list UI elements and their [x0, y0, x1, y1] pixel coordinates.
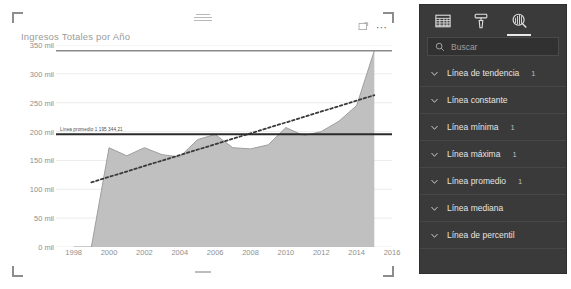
x-axis-labels: 1998200020022004200620082010201220142016 [56, 248, 390, 262]
analytics-card-count: 1 [511, 123, 515, 132]
chevron-down-icon[interactable] [430, 69, 439, 78]
x-axis-tick-label: 2008 [242, 248, 259, 257]
analytics-pane: Buscar Línea de tendencia1Línea constant… [419, 4, 567, 274]
focus-mode-icon[interactable] [358, 18, 369, 36]
y-axis-tick-label: 250 mil [30, 98, 54, 107]
x-axis-tick-label: 2016 [384, 248, 401, 257]
analytics-card-label: Línea constante [447, 95, 508, 105]
y-axis-tick-label: 200 mil [30, 127, 54, 136]
analytics-card[interactable]: Línea de tendencia1 [420, 60, 566, 87]
format-tab[interactable] [470, 10, 492, 32]
analytics-card-label: Línea mediana [447, 203, 503, 213]
search-icon [435, 42, 445, 52]
more-options-icon[interactable]: ⋯ [376, 23, 388, 31]
chevron-down-icon[interactable] [430, 96, 439, 105]
area-series-fill [74, 51, 375, 247]
analytics-card[interactable]: Línea de percentil [420, 222, 566, 249]
x-axis-tick-label: 2004 [171, 248, 188, 257]
y-axis-tick-label: 150 mil [30, 156, 54, 165]
paint-roller-icon [472, 12, 490, 30]
x-axis-tick-label: 2010 [278, 248, 295, 257]
pane-tab-strip [420, 5, 566, 36]
chevron-down-icon[interactable] [430, 123, 439, 132]
analytics-tab[interactable] [508, 10, 530, 32]
analytics-card[interactable]: Línea mediana [420, 195, 566, 222]
chevron-down-icon[interactable] [430, 150, 439, 159]
y-axis-tick-label: 100 mil [30, 185, 54, 194]
fields-table-icon [434, 13, 452, 29]
search-input[interactable]: Buscar [427, 37, 559, 56]
visual-header-icons: ⋯ [358, 18, 388, 36]
analytics-card-count: 1 [518, 177, 522, 186]
area-chart-visual[interactable]: ⋯ Ingresos Totales por Año 0 mil50 mil10… [12, 12, 394, 277]
x-axis-tick-label: 2002 [136, 248, 153, 257]
y-axis-tick-label: 50 mil [34, 214, 54, 223]
x-axis-tick-label: 2012 [313, 248, 330, 257]
analytics-card-label: Línea de percentil [447, 230, 515, 240]
fields-tab[interactable] [432, 10, 454, 32]
plot-area: 0 mil50 mil100 mil150 mil200 mil250 mil3… [12, 45, 394, 277]
x-axis-tick-label: 2006 [207, 248, 224, 257]
x-axis-tick-label: 2000 [101, 248, 118, 257]
chevron-down-icon[interactable] [430, 204, 439, 213]
analytics-card-count: 1 [531, 69, 535, 78]
analytics-magnifier-icon [510, 12, 529, 30]
y-axis-tick-label: 300 mil [30, 69, 54, 78]
app-root: ⋯ Ingresos Totales por Año 0 mil50 mil10… [0, 0, 571, 289]
report-canvas: ⋯ Ingresos Totales por Año 0 mil50 mil10… [0, 0, 410, 289]
analytics-card[interactable]: Línea promedio1 [420, 168, 566, 195]
analytics-card-count: 1 [512, 150, 516, 159]
analytics-card[interactable]: Línea mínima1 [420, 114, 566, 141]
analytics-card-label: Línea promedio [447, 176, 506, 186]
chevron-down-icon[interactable] [430, 177, 439, 186]
search-placeholder: Buscar [451, 42, 477, 52]
analytics-card[interactable]: Línea constante [420, 87, 566, 114]
chart-svg [56, 45, 392, 247]
y-axis-tick-label: 0 mil [38, 243, 54, 252]
y-axis-labels: 0 mil50 mil100 mil150 mil200 mil250 mil3… [14, 45, 54, 245]
chevron-down-icon[interactable] [430, 231, 439, 240]
average-line-label: Línea promedio 1 195 344,21 [60, 127, 123, 132]
analytics-card[interactable]: Línea máxima1 [420, 141, 566, 168]
x-axis-tick-label: 1998 [65, 248, 82, 257]
analytics-card-list: Línea de tendencia1Línea constanteLínea … [420, 60, 566, 249]
selection-corner-top-left [12, 12, 23, 23]
drag-handle-icon-top[interactable] [194, 14, 212, 23]
analytics-card-label: Línea máxima [447, 149, 500, 159]
analytics-card-label: Línea de tendencia [447, 68, 519, 78]
analytics-card-label: Línea mínima [447, 122, 499, 132]
x-axis-tick-label: 2014 [348, 248, 365, 257]
y-axis-tick-label: 350 mil [30, 41, 54, 50]
